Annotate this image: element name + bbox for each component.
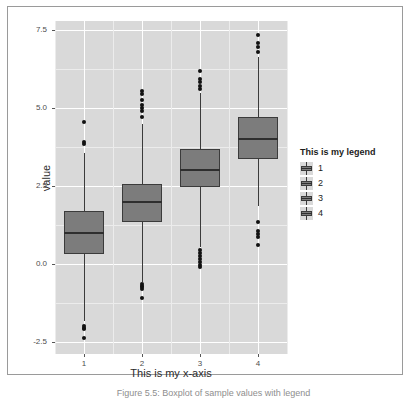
y-axis-tick-mark [52,264,55,265]
grid-line-vertical-minor [113,21,114,354]
boxplot-group [238,21,278,354]
legend-item[interactable]: 4 [300,206,400,220]
legend-item-label: 1 [318,163,323,173]
boxplot-outlier-point [82,336,86,340]
boxplot-outlier-point [256,50,260,54]
y-axis-tick-label: -2.5 [33,337,47,346]
boxplot-outlier-point [256,45,260,49]
y-axis-tick-label: 2.5 [36,181,47,190]
boxplot-group [122,21,162,354]
y-axis-tick-mark [52,30,55,31]
legend-item[interactable]: 3 [300,191,400,205]
figure-frame: value This is my x-axis This is my legen… [7,6,403,375]
x-axis-tick-label: 1 [64,359,104,368]
boxplot-outlier-point [198,69,202,73]
boxplot-median-line [64,232,104,234]
boxplot-outlier-point [140,282,144,286]
legend-item[interactable]: 2 [300,176,400,190]
x-axis-label: This is my x-axis [55,367,287,379]
boxplot-group [64,21,104,354]
legend-title: This is my legend [300,147,400,157]
y-axis-tick-label: 7.5 [36,25,47,34]
grid-line-vertical-minor [171,21,172,354]
grid-line-vertical-minor [55,21,56,354]
boxplot-outlier-point [82,142,86,146]
legend-item-label: 3 [318,193,323,203]
y-axis-tick-mark [52,108,55,109]
legend-items: 1234 [300,161,400,220]
grid-line-vertical-minor [287,21,288,354]
grid-line-vertical-minor [229,21,230,354]
boxplot-outlier-point [256,41,260,45]
x-axis-tick-label: 3 [180,359,220,368]
x-axis-tick-label: 2 [122,359,162,368]
plot-panel [55,21,287,354]
x-axis-tick-mark [200,354,201,357]
boxplot-outlier-point [198,248,202,252]
boxplot-outlier-point [140,98,144,102]
boxplot-outlier-point [82,324,86,328]
boxplot-outlier-point [256,243,260,247]
boxplot-outlier-point [140,115,144,119]
boxplot-outlier-point [256,33,260,37]
x-axis-tick-mark [142,354,143,357]
y-axis-tick-mark [52,342,55,343]
boxplot-outlier-point [140,296,144,300]
boxplot-box [122,184,162,221]
x-axis-tick-mark [258,354,259,357]
x-axis-tick-mark [84,354,85,357]
boxplot-group [180,21,220,354]
legend-item-label: 2 [318,178,323,188]
boxplot-box [180,149,220,188]
legend-item-label: 4 [318,208,323,218]
boxplot-median-line [238,138,278,140]
boxplot-outlier-point [256,220,260,224]
boxplot-outlier-point [82,120,86,124]
y-axis-tick-mark [52,186,55,187]
legend: This is my legend 1234 [300,147,400,221]
legend-key-boxplot-icon [300,177,313,190]
y-axis-tick-label: 5.0 [36,103,47,112]
legend-key-boxplot-icon [300,192,313,205]
legend-item[interactable]: 1 [300,161,400,175]
boxplot-outlier-point [198,77,202,81]
y-axis-tick-label: 0.0 [36,259,47,268]
y-axis-label: value [40,148,52,208]
boxplot-median-line [122,201,162,203]
x-axis-tick-label: 4 [238,359,278,368]
legend-key-boxplot-icon [300,207,313,220]
boxplot-outlier-point [140,103,144,107]
legend-key-boxplot-icon [300,162,313,175]
boxplot-outlier-point [140,89,144,93]
figure-caption: Figure 5.5: Boxplot of sample values wit… [22,388,405,398]
boxplot-outlier-point [198,87,202,91]
boxplot-median-line [180,169,220,171]
